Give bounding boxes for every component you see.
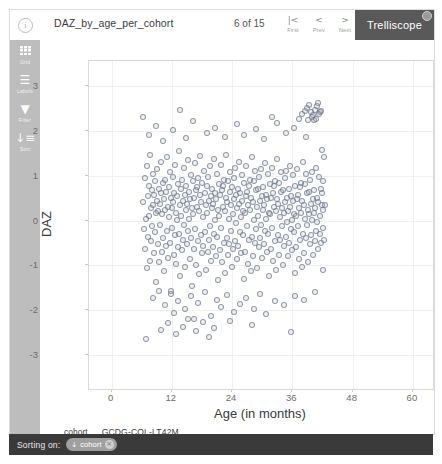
- data-point: [196, 271, 202, 277]
- data-point: [191, 316, 197, 322]
- gridline-vertical: [413, 61, 414, 389]
- data-point: [315, 100, 321, 106]
- data-point: [294, 166, 300, 172]
- data-point: [265, 231, 271, 237]
- data-point: [320, 178, 326, 184]
- info-icon[interactable]: i: [18, 18, 33, 33]
- y-tick-label: -3: [30, 349, 38, 360]
- data-point: [314, 219, 320, 225]
- data-point: [245, 261, 251, 267]
- data-point: [150, 295, 156, 301]
- pager-first-button[interactable]: |<First: [280, 14, 306, 34]
- data-point: [170, 199, 176, 205]
- pager-prev-label: Prev: [306, 26, 332, 34]
- data-point: [295, 192, 301, 198]
- data-point: [157, 222, 163, 228]
- x-tick-label: 0: [108, 392, 113, 403]
- data-point: [156, 288, 162, 294]
- data-point: [257, 235, 263, 241]
- data-point: [224, 235, 230, 241]
- pager-prev-button[interactable]: <Prev: [306, 14, 332, 34]
- data-point: [230, 211, 236, 217]
- data-point: [274, 156, 280, 162]
- data-point: [320, 267, 326, 273]
- data-point: [147, 258, 153, 264]
- data-point: [281, 302, 287, 308]
- data-point: [171, 310, 177, 316]
- data-point: [303, 134, 309, 140]
- data-point: [140, 114, 146, 120]
- data-point: [173, 331, 179, 337]
- data-point: [307, 177, 313, 183]
- data-point: [147, 152, 153, 158]
- data-point: [207, 223, 213, 229]
- data-point: [301, 297, 307, 303]
- data-point: [233, 220, 239, 226]
- data-point: [162, 177, 168, 183]
- data-point: [181, 222, 187, 228]
- data-point: [192, 160, 198, 166]
- data-point: [202, 229, 208, 235]
- left-sidebar: Grid☰Labels▼Filter↓≡Sort: [10, 40, 40, 434]
- brand-badge-icon[interactable]: [422, 11, 432, 21]
- close-icon[interactable]: ×: [105, 440, 114, 449]
- data-point: [190, 118, 196, 124]
- data-point: [322, 202, 328, 208]
- data-point: [292, 293, 298, 299]
- data-point: [146, 132, 152, 138]
- data-point: [257, 291, 263, 297]
- data-point: [254, 265, 260, 271]
- data-point: [231, 175, 237, 181]
- data-point: [246, 183, 252, 189]
- sidebar-item-filter[interactable]: ▼Filter: [10, 98, 40, 127]
- data-point: [206, 237, 212, 243]
- data-point: [167, 240, 173, 246]
- data-point: [301, 250, 307, 256]
- data-point: [243, 163, 249, 169]
- gridline-horizontal: [89, 86, 433, 87]
- data-point: [144, 265, 150, 271]
- data-point: [286, 186, 292, 192]
- data-point: [174, 193, 180, 199]
- data-point: [195, 300, 201, 306]
- data-point: [179, 177, 185, 183]
- data-point: [237, 301, 243, 307]
- data-point: [272, 298, 278, 304]
- data-point: [249, 322, 255, 328]
- data-point: [269, 165, 275, 171]
- data-point: [171, 252, 177, 258]
- data-point: [241, 276, 247, 282]
- y-tick-label: 0: [33, 214, 38, 225]
- data-point: [270, 190, 276, 196]
- data-point: [313, 165, 319, 171]
- data-point: [144, 163, 150, 169]
- data-point: [184, 241, 190, 247]
- data-point: [290, 172, 296, 178]
- data-point: [155, 241, 161, 247]
- filter-icon: ▼: [10, 103, 40, 116]
- data-point: [169, 225, 175, 231]
- data-point: [176, 231, 182, 237]
- data-point: [214, 171, 220, 177]
- data-point: [214, 234, 220, 240]
- data-point: [185, 316, 191, 322]
- data-point: [142, 246, 148, 252]
- data-point: [158, 327, 164, 333]
- sidebar-label-filter: Filter: [10, 116, 40, 124]
- x-tick-label: 36: [286, 392, 297, 403]
- data-point: [266, 273, 272, 279]
- data-point: [283, 130, 289, 136]
- x-axis-label: Age (in months): [214, 406, 306, 421]
- gridline-vertical: [353, 61, 354, 389]
- data-point: [269, 225, 275, 231]
- data-point: [234, 256, 240, 262]
- data-point: [210, 244, 216, 250]
- sidebar-item-grid[interactable]: Grid: [10, 40, 40, 69]
- data-point: [217, 247, 223, 253]
- trelliscope-app: i DAZ_by_age_per_cohort 6 of 15 |<First<…: [9, 9, 435, 435]
- data-point: [188, 172, 194, 178]
- data-point: [160, 138, 166, 144]
- data-point: [268, 246, 274, 252]
- sort-chip-cohort[interactable]: ↓ cohort ×: [66, 438, 116, 451]
- data-point: [200, 243, 206, 249]
